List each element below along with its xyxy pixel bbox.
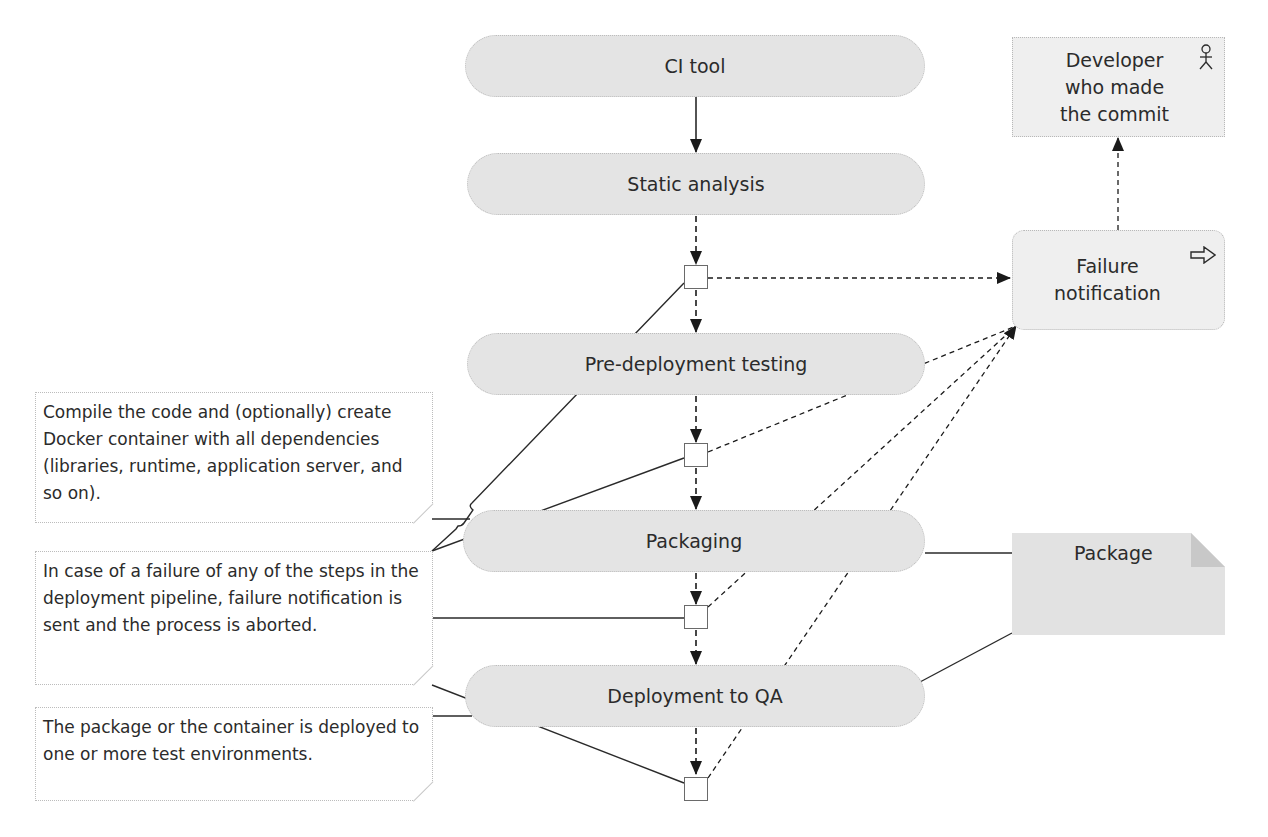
- developer-label-line-1: Developer: [1066, 47, 1164, 74]
- note-deploy: The package or the container is deployed…: [35, 707, 433, 801]
- stage-ci-tool[interactable]: CI tool: [465, 35, 925, 97]
- actor-developer[interactable]: Developer who made the commit: [1012, 37, 1225, 137]
- decision-junction-2[interactable]: [684, 443, 708, 467]
- developer-label-line-3: the commit: [1060, 101, 1169, 128]
- note-compile-text: Compile the code and (optionally) create…: [43, 402, 403, 503]
- edge-qa-to-package: [920, 633, 1012, 682]
- stage-label: Packaging: [646, 530, 742, 552]
- stage-label: Pre-deployment testing: [585, 353, 808, 375]
- stage-label: Static analysis: [627, 173, 764, 195]
- event-failure-notification[interactable]: Failure notification: [1012, 230, 1225, 330]
- failure-label-line-1: Failure: [1076, 253, 1139, 280]
- note-failure-text: In case of a failure of any of the steps…: [43, 561, 419, 635]
- note-compile: Compile the code and (optionally) create…: [35, 392, 433, 523]
- stage-pre-deployment-testing[interactable]: Pre-deployment testing: [467, 333, 925, 395]
- developer-label-line-2: who made: [1065, 74, 1164, 101]
- stage-static-analysis[interactable]: Static analysis: [467, 153, 925, 215]
- decision-junction-4[interactable]: [684, 777, 708, 801]
- decision-junction-1[interactable]: [684, 265, 708, 289]
- stage-deployment-to-qa[interactable]: Deployment to QA: [465, 665, 925, 727]
- note-deploy-text: The package or the container is deployed…: [43, 717, 419, 764]
- decision-junction-3[interactable]: [684, 605, 708, 629]
- failure-label-line-2: notification: [1054, 280, 1161, 307]
- stage-label: CI tool: [665, 55, 726, 77]
- package-label: Package: [1074, 542, 1153, 564]
- outline-arrow-right-icon: [1190, 246, 1216, 264]
- actor-stick-figure-icon: [1197, 44, 1215, 70]
- note-failure: In case of a failure of any of the steps…: [35, 551, 433, 685]
- stage-label: Deployment to QA: [607, 685, 782, 707]
- stage-packaging[interactable]: Packaging: [463, 510, 925, 572]
